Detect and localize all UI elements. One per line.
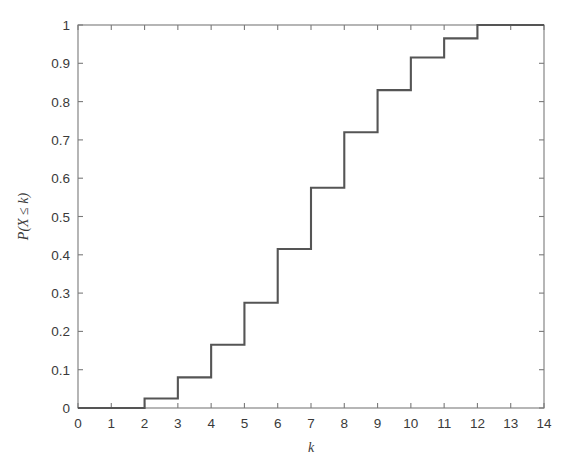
x-tick-label: 1 <box>108 416 116 431</box>
y-tick-label: 0 <box>62 401 70 416</box>
x-tick-label: 0 <box>74 416 82 431</box>
y-tick-label: 0.9 <box>51 56 70 71</box>
x-tick-label: 11 <box>437 416 451 431</box>
x-tick-label: 4 <box>207 416 215 431</box>
y-tick-label: 0.5 <box>51 210 70 225</box>
tick-labels-layer: 0123456789101112131400.10.20.30.40.50.60… <box>51 18 552 431</box>
y-tick-label: 0.8 <box>51 95 70 110</box>
figure-canvas: 0123456789101112131400.10.20.30.40.50.60… <box>0 0 576 466</box>
cdf-step-line <box>78 25 544 408</box>
x-tick-label: 7 <box>307 416 315 431</box>
x-tick-label: 6 <box>274 416 282 431</box>
x-tick-label: 13 <box>503 416 518 431</box>
x-tick-label: 9 <box>374 416 382 431</box>
y-tick-label: 0.2 <box>51 324 70 339</box>
y-axis-title: P(X ≤ k) <box>16 193 32 242</box>
x-axis-title: k <box>308 440 315 455</box>
y-tick-label: 0.1 <box>51 363 70 378</box>
x-tick-label: 10 <box>403 416 418 431</box>
y-tick-label: 0.4 <box>51 248 70 263</box>
y-tick-label: 0.6 <box>51 171 70 186</box>
x-tick-label: 2 <box>141 416 149 431</box>
x-tick-label: 8 <box>341 416 349 431</box>
x-tick-label: 5 <box>241 416 249 431</box>
cdf-step-plot: 0123456789101112131400.10.20.30.40.50.60… <box>0 0 576 466</box>
x-tick-label: 12 <box>470 416 485 431</box>
y-tick-label: 1 <box>62 18 70 33</box>
data-series-layer <box>78 25 544 408</box>
y-tick-label: 0.7 <box>51 133 70 148</box>
x-tick-label: 3 <box>174 416 182 431</box>
x-tick-label: 14 <box>536 416 552 431</box>
y-tick-label: 0.3 <box>51 286 70 301</box>
